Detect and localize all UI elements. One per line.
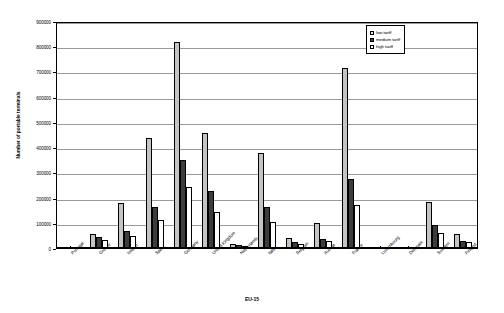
bar-group bbox=[337, 23, 365, 248]
y-axis-tick-label: 600000 bbox=[0, 95, 55, 100]
bar bbox=[130, 236, 136, 248]
y-axis-tick-mark bbox=[53, 98, 56, 99]
y-axis-tick-label: 200000 bbox=[0, 196, 55, 201]
x-axis-tick-mark bbox=[70, 246, 71, 249]
bar-group bbox=[197, 23, 225, 248]
legend-item-high-tariff: high tariff bbox=[370, 43, 400, 50]
bar bbox=[270, 222, 276, 248]
y-axis-tick-label: 900000 bbox=[0, 20, 55, 25]
y-axis-tick-label: 400000 bbox=[0, 146, 55, 151]
bar bbox=[354, 205, 360, 248]
bar-chart: Number of portable terminals 01000002000… bbox=[0, 0, 504, 313]
y-axis-tick-mark bbox=[53, 22, 56, 23]
x-axis-tick-mark bbox=[408, 246, 409, 249]
bar-group bbox=[57, 23, 85, 248]
y-axis-tick-label: 700000 bbox=[0, 70, 55, 75]
y-axis-tick-mark bbox=[53, 173, 56, 174]
bar-group bbox=[85, 23, 113, 248]
legend-item-low-tariff: low tariff bbox=[370, 29, 400, 36]
legend-swatch-icon bbox=[370, 38, 374, 42]
plot-area bbox=[56, 22, 478, 249]
bar-group bbox=[365, 23, 393, 248]
y-axis-tick-mark bbox=[53, 224, 56, 225]
legend-swatch-icon bbox=[370, 31, 374, 35]
bar-group bbox=[253, 23, 281, 248]
bar-group bbox=[141, 23, 169, 248]
bar bbox=[242, 246, 248, 248]
bar-group bbox=[309, 23, 337, 248]
bar bbox=[158, 220, 164, 248]
x-axis-tick-mark bbox=[380, 246, 381, 249]
y-axis-tick-mark bbox=[53, 148, 56, 149]
x-axis-title: EU-15 bbox=[0, 296, 504, 302]
bar-group bbox=[281, 23, 309, 248]
y-axis-tick-label: 0 bbox=[0, 247, 55, 252]
bar-group bbox=[169, 23, 197, 248]
bar-group bbox=[449, 23, 477, 248]
bar-group bbox=[225, 23, 253, 248]
bar bbox=[102, 240, 108, 248]
y-axis-tick-mark bbox=[53, 123, 56, 124]
y-axis-tick-label: 800000 bbox=[0, 45, 55, 50]
bar bbox=[214, 212, 220, 248]
y-axis-tick-mark bbox=[53, 72, 56, 73]
legend-item-label: low tariff bbox=[376, 30, 391, 35]
bar-groups bbox=[57, 23, 477, 248]
bar bbox=[466, 242, 472, 248]
bar bbox=[326, 241, 332, 248]
y-axis-tick-label: 100000 bbox=[0, 221, 55, 226]
bar-group bbox=[393, 23, 421, 248]
y-axis-tick-label: 500000 bbox=[0, 120, 55, 125]
legend-swatch-icon bbox=[370, 45, 374, 49]
legend: low tariff medium tariff high tariff bbox=[366, 25, 405, 54]
bar-group bbox=[113, 23, 141, 248]
bar bbox=[438, 233, 444, 248]
y-axis-tick-label: 300000 bbox=[0, 171, 55, 176]
bar-group bbox=[421, 23, 449, 248]
legend-item-medium-tariff: medium tariff bbox=[370, 36, 400, 43]
legend-item-label: medium tariff bbox=[376, 37, 400, 42]
y-axis-tick-mark bbox=[53, 199, 56, 200]
legend-item-label: high tariff bbox=[376, 44, 393, 49]
bar bbox=[186, 187, 192, 248]
bar bbox=[298, 244, 304, 248]
y-axis-tick-mark bbox=[53, 47, 56, 48]
x-axis-labels: PortugalGreeceIrelandSpainGermanyUnited … bbox=[56, 250, 478, 298]
